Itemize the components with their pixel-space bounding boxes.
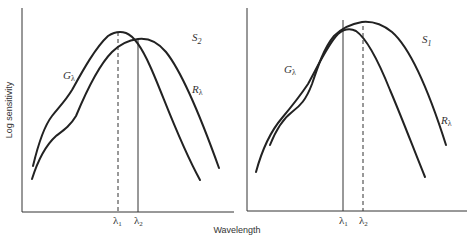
panel-s2: S2 Gλ Rλ λ1 λ2 (22, 8, 234, 228)
g-lambda-label: Gλ (284, 63, 296, 77)
g-lambda-label: Gλ (63, 69, 75, 83)
y-axis-label: Log sensitivity (4, 81, 14, 138)
r-lambda-label: Rλ (191, 83, 203, 97)
lambda1-tick: λ1 (113, 214, 122, 228)
sensitivity-diagram: S2 Gλ Rλ λ1 λ2 S1 Gλ Rλ λ1 λ2 Log sensit… (0, 0, 474, 237)
lambda2-tick: λ2 (359, 214, 368, 228)
panel-s1: S1 Gλ Rλ λ1 λ2 (247, 8, 467, 228)
lambda2-tick: λ2 (134, 214, 143, 228)
g-lambda-curve (33, 32, 200, 180)
x-axis-label: Wavelength (213, 225, 260, 235)
s1-title: S1 (422, 33, 432, 48)
r-lambda-label: Rλ (440, 114, 452, 128)
s2-title: S2 (192, 31, 202, 46)
g-lambda-curve (256, 29, 425, 177)
lambda1-tick: λ1 (339, 214, 348, 228)
r-lambda-curve (32, 39, 219, 179)
r-lambda-curve (270, 22, 446, 145)
